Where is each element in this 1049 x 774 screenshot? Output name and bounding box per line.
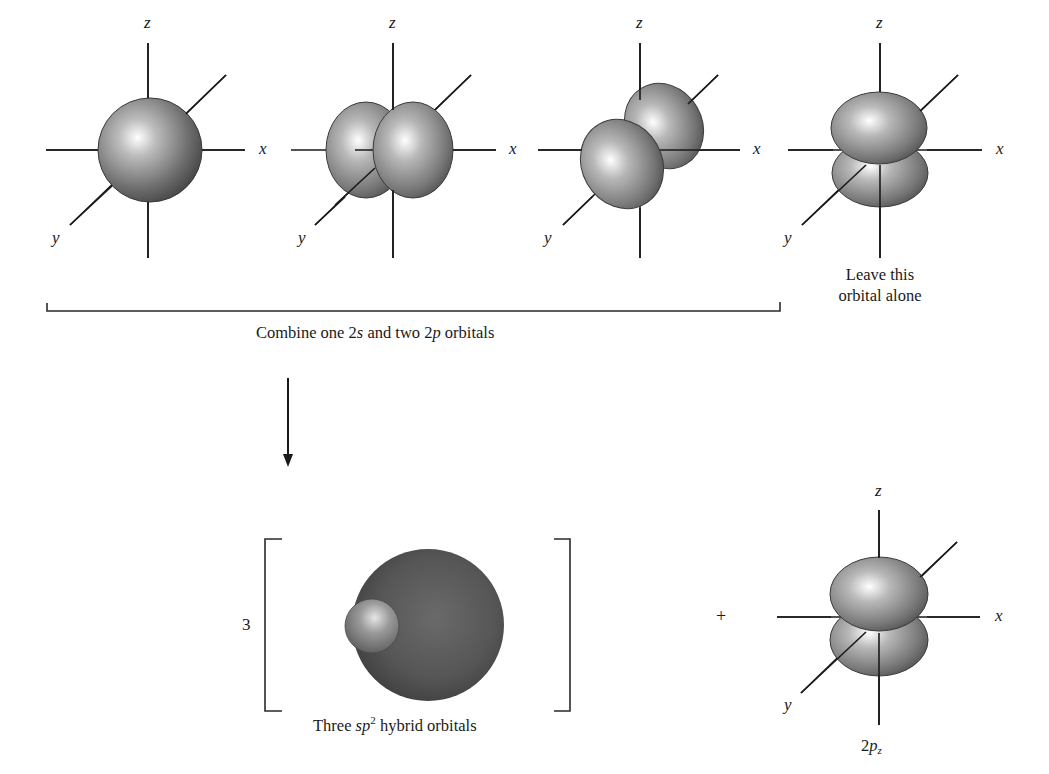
axis-label-y: y xyxy=(784,229,792,246)
multiplier-label: 3 xyxy=(242,616,251,633)
hybrid-caption: Three sp2 hybrid orbitals xyxy=(313,714,477,737)
axis-label-y: y xyxy=(544,229,552,246)
orbital-2pz-bottom xyxy=(777,510,980,725)
axis-label-y: y xyxy=(52,229,60,246)
axis-label-x: x xyxy=(509,140,517,157)
leave-alone-caption: Leave this orbital alone xyxy=(822,265,938,306)
orbital-2pz-top xyxy=(788,43,982,258)
orbital-2s xyxy=(46,43,245,258)
axis-label-z: z xyxy=(144,14,151,31)
sp2-hybrid-orbital xyxy=(345,549,504,701)
axis-label-y: y xyxy=(784,696,792,713)
right-square-bracket xyxy=(554,539,570,711)
axis-label-z: z xyxy=(389,14,396,31)
axis-label-z: z xyxy=(875,482,882,499)
axis-label-x: x xyxy=(996,140,1004,157)
axis-label-z: z xyxy=(876,14,883,31)
combine-bracket xyxy=(47,302,780,311)
axis-label-y: y xyxy=(298,229,306,246)
pz-caption: 2pz xyxy=(861,736,882,758)
hybridization-diagram xyxy=(0,0,1049,774)
axis-label-x: x xyxy=(995,607,1003,624)
axis-label-x: x xyxy=(259,140,267,157)
axis-label-z: z xyxy=(636,14,643,31)
axis-label-x: x xyxy=(753,140,761,157)
orbital-2py xyxy=(538,43,740,258)
combine-caption: Combine one 2s and two 2p orbitals xyxy=(256,323,494,344)
left-square-bracket xyxy=(265,539,282,711)
orbital-2px xyxy=(291,43,496,258)
down-arrow-icon xyxy=(283,378,293,467)
plus-sign: + xyxy=(716,607,726,625)
